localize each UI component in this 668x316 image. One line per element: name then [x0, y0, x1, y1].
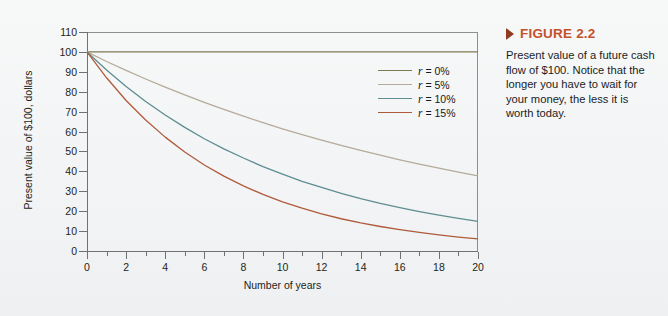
- legend-label: r = 15%: [418, 107, 455, 119]
- y-axis-tick: [79, 52, 87, 53]
- legend-color-swatch: [378, 112, 412, 114]
- x-axis-tick-label: 10: [268, 261, 298, 273]
- figure-caption-text: Present value of a future cash flow of $…: [506, 48, 656, 121]
- x-axis-tick-minor: [380, 252, 381, 256]
- y-axis-tick: [79, 171, 87, 172]
- x-axis-tick: [87, 252, 88, 259]
- y-axis-tick: [79, 151, 87, 152]
- x-axis-tick-label: 20: [463, 261, 493, 273]
- legend-item: r = 15%: [378, 106, 455, 119]
- x-axis-tick: [165, 252, 166, 259]
- legend-color-swatch: [378, 98, 412, 100]
- triangle-right-icon: [506, 28, 514, 40]
- x-axis-tick-label: 2: [111, 261, 141, 273]
- y-axis-tick: [79, 112, 87, 113]
- x-axis-tick-minor: [107, 252, 108, 256]
- x-axis-tick: [400, 252, 401, 259]
- chart-legend: r = 0%r = 5%r = 10%r = 15%: [378, 64, 455, 120]
- x-axis-tick-label: 0: [72, 261, 102, 273]
- figure-caption-header: FIGURE 2.2: [506, 26, 656, 41]
- y-axis-tick: [79, 92, 87, 93]
- legend-color-swatch: [378, 70, 412, 72]
- legend-label: r = 10%: [418, 93, 455, 105]
- x-axis-tick-label: 16: [385, 261, 415, 273]
- x-axis-tick-minor: [224, 252, 225, 256]
- y-axis-title: Present value of $100, dollars: [22, 50, 34, 230]
- legend-color-swatch: [378, 84, 412, 86]
- x-axis-tick: [283, 252, 284, 259]
- x-axis-tick: [322, 252, 323, 259]
- x-axis-tick: [243, 252, 244, 259]
- y-axis-tick: [79, 132, 87, 133]
- legend-label: r = 5%: [418, 79, 450, 91]
- x-axis-tick-minor: [419, 252, 420, 256]
- figure-caption: FIGURE 2.2 Present value of a future cas…: [506, 26, 656, 121]
- legend-item: r = 5%: [378, 78, 455, 91]
- legend-item: r = 10%: [378, 92, 455, 105]
- y-axis-tick: [79, 72, 87, 73]
- x-axis-tick: [478, 252, 479, 259]
- x-axis-tick-minor: [458, 252, 459, 256]
- x-axis-tick: [439, 252, 440, 259]
- x-axis-tick-minor: [302, 252, 303, 256]
- legend-item: r = 0%: [378, 64, 455, 77]
- x-axis-tick: [361, 252, 362, 259]
- x-axis-tick-label: 6: [189, 261, 219, 273]
- x-axis-tick-label: 12: [307, 261, 337, 273]
- y-axis-tick: [79, 251, 87, 252]
- figure-container: 0102030405060708090100110 02468101214161…: [0, 0, 668, 316]
- y-axis-tick: [79, 191, 87, 192]
- legend-label: r = 0%: [418, 65, 450, 77]
- x-axis-tick: [204, 252, 205, 259]
- x-axis-tick-label: 18: [424, 261, 454, 273]
- x-axis-tick-label: 8: [228, 261, 258, 273]
- x-axis-tick-minor: [341, 252, 342, 256]
- x-axis-title: Number of years: [87, 279, 478, 291]
- x-axis-tick-label: 14: [346, 261, 376, 273]
- x-axis-tick-minor: [263, 252, 264, 256]
- y-axis-tick: [79, 32, 87, 33]
- x-axis-tick: [126, 252, 127, 259]
- x-axis-tick-label: 4: [150, 261, 180, 273]
- y-axis-tick: [79, 231, 87, 232]
- figure-title: FIGURE 2.2: [520, 26, 596, 41]
- y-axis-tick: [79, 211, 87, 212]
- chart-region: 0102030405060708090100110 02468101214161…: [0, 0, 496, 316]
- x-axis-tick-minor: [185, 252, 186, 256]
- x-axis-tick-minor: [146, 252, 147, 256]
